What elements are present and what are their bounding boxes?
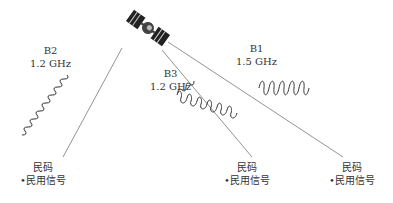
signal-line-b2 [63, 48, 122, 157]
receiver-title: 民码 [20, 161, 66, 174]
band-name: B1 [236, 42, 277, 55]
band-name: B2 [30, 44, 71, 57]
receiver-title: 民码 [224, 161, 270, 174]
band-label-b2: B2 1.2 GHz [30, 44, 71, 70]
receiver-item: •民用信号 [20, 174, 66, 187]
band-frequency: 1.2 GHz [30, 57, 71, 70]
receiver-item: •民用信号 [224, 174, 270, 187]
satellite-icon [126, 10, 170, 47]
band-frequency: 1.5 GHz [236, 55, 277, 68]
wave-b2 [22, 75, 68, 135]
band-name: B3 [150, 67, 191, 80]
receiver-label-3: 民码 •民用信号 [329, 161, 375, 187]
band-label-b1: B1 1.5 GHz [236, 42, 277, 68]
receiver-title: 民码 [329, 161, 375, 174]
receiver-label-1: 民码 •民用信号 [20, 161, 66, 187]
receiver-item: •民用信号 [329, 174, 375, 187]
receiver-label-2: 民码 •民用信号 [224, 161, 270, 187]
band-label-b3: B3 1.2 GHz [150, 67, 191, 93]
wave-b3-body [177, 91, 237, 118]
wave-b1 [259, 81, 309, 95]
band-frequency: 1.2 GHz [150, 80, 191, 93]
